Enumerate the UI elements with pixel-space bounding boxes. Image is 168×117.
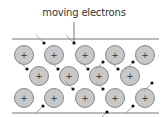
ion: + <box>136 89 155 108</box>
plus-sign-icon: + <box>65 71 73 81</box>
plus-sign-icon: + <box>126 71 134 81</box>
ion: + <box>90 67 109 86</box>
ion: + <box>106 46 125 65</box>
plus-sign-icon: + <box>20 93 28 103</box>
plus-sign-icon: + <box>20 50 28 60</box>
ion: + <box>45 46 64 65</box>
metal-lattice-diagram: ++++++++++++++ <box>0 0 168 117</box>
electron <box>36 35 46 45</box>
ion: + <box>60 67 79 86</box>
positive-ions: ++++++++++++++ <box>15 46 155 108</box>
plus-sign-icon: + <box>81 50 89 60</box>
plus-sign-icon: + <box>111 93 119 103</box>
ion: + <box>121 67 140 86</box>
plus-sign-icon: + <box>95 71 103 81</box>
ion: + <box>76 46 95 65</box>
plus-sign-icon: + <box>141 93 149 103</box>
plus-sign-icon: + <box>50 93 58 103</box>
ion: + <box>30 67 49 86</box>
ion: + <box>45 89 64 108</box>
ion: + <box>136 46 155 65</box>
plus-sign-icon: + <box>81 93 89 103</box>
ion: + <box>76 89 95 108</box>
plus-sign-icon: + <box>35 71 43 81</box>
plus-sign-icon: + <box>50 50 58 60</box>
ion: + <box>15 89 34 108</box>
plus-sign-icon: + <box>111 50 119 60</box>
plus-sign-icon: + <box>141 50 149 60</box>
ion: + <box>106 89 125 108</box>
ion: + <box>15 46 34 65</box>
electron <box>99 110 109 117</box>
